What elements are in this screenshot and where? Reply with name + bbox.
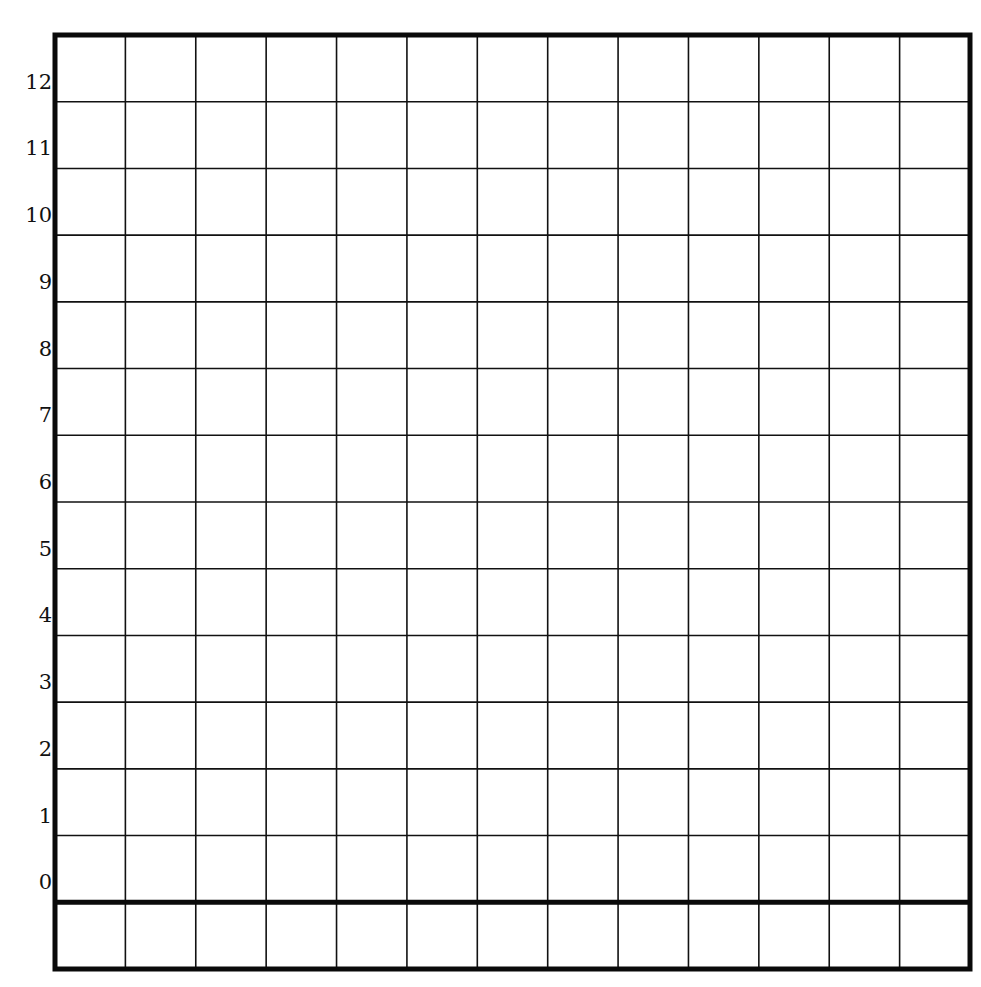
y-axis-label: 5 <box>0 539 52 560</box>
y-axis-label: 6 <box>0 472 52 493</box>
y-axis-label: 2 <box>0 739 52 760</box>
y-axis-label: 10 <box>0 205 52 226</box>
y-axis-label: 7 <box>0 405 52 426</box>
y-axis-label: 8 <box>0 339 52 360</box>
y-axis-label: 3 <box>0 672 52 693</box>
y-axis-label: 11 <box>0 138 52 159</box>
y-axis-label: 1 <box>0 806 52 827</box>
y-axis-label: 9 <box>0 272 52 293</box>
number-grid <box>0 0 981 987</box>
y-axis-label: 0 <box>0 872 52 893</box>
y-axis-label: 4 <box>0 605 52 626</box>
y-axis-label: 12 <box>0 72 52 93</box>
